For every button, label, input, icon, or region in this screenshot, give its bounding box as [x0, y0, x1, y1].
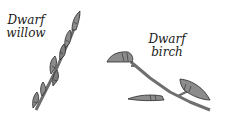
dwarf-birch-twig-icon [107, 52, 210, 110]
dwarf-willow-twig-icon [33, 11, 80, 110]
twig-illustrations [0, 0, 226, 125]
